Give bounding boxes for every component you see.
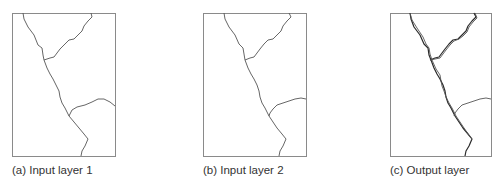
boundary-top-right-layer-1 [430,13,476,60]
panel-input-layer-1 [12,13,116,157]
boundary-right [454,98,491,116]
boundary-right [69,99,115,116]
boundary-top-right [44,13,92,60]
map-frame [204,14,307,157]
map-output-layer [390,13,492,157]
map-frame [13,14,116,157]
caption-input-layer-2: (b) Input layer 2 [203,164,284,176]
boundary-main-layer-2 [410,13,472,139]
boundary-top-right-layer-2 [430,13,477,60]
boundary-main [224,13,286,156]
map-input-layer-1 [12,13,116,157]
map-input-layer-2 [203,13,307,157]
panel-output-layer [390,13,492,157]
map-frame [391,14,492,157]
panel-input-layer-2 [203,13,307,157]
caption-output-layer: (c) Output layer [390,164,469,176]
boundary-top-right [245,13,291,60]
caption-input-layer-1: (a) Input layer 1 [12,164,93,176]
boundary-right [269,98,306,116]
